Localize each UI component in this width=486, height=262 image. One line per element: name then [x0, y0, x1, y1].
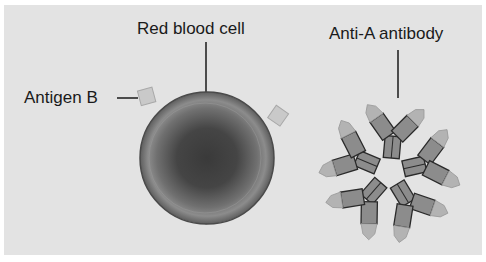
antigen-b-icon: [137, 87, 155, 105]
label-anti-a-antibody: Anti-A antibody: [329, 25, 443, 42]
antigen-b-icon: [268, 105, 289, 126]
label-antigen-b: Antigen B: [24, 89, 98, 106]
label-red-blood-cell: Red blood cell: [137, 20, 245, 37]
red-blood-cell-icon: [140, 92, 274, 224]
anti-a-antibody-cluster-icon: [312, 99, 466, 250]
